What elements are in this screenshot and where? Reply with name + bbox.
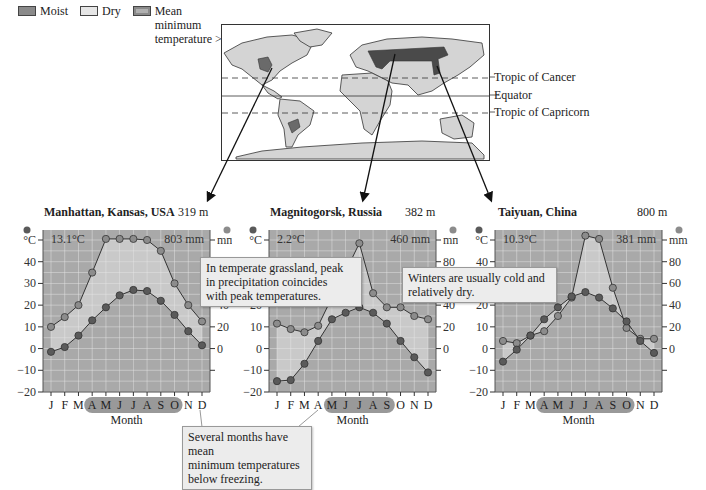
svg-text:F: F <box>61 398 68 412</box>
chart-title-magnitogorsk: Magnitogorsk, Russia <box>270 205 382 220</box>
svg-text:°C: °C <box>249 233 262 247</box>
svg-text:A: A <box>595 398 604 412</box>
svg-text:D: D <box>424 398 433 412</box>
svg-text:10: 10 <box>476 320 488 334</box>
svg-text:803 mm: 803 mm <box>164 232 204 246</box>
world-map-graphic <box>222 25 489 160</box>
svg-text:F: F <box>513 398 520 412</box>
legend-label: Dry <box>102 4 121 18</box>
svg-text:20: 20 <box>669 320 681 334</box>
svg-text:Month: Month <box>336 413 368 427</box>
climate-chart-magnitogorsk: −20−1001020°C0204080mm2.2°C460 mmJFMAMJJ… <box>226 222 458 427</box>
svg-text:M: M <box>525 398 536 412</box>
svg-text:J: J <box>569 398 574 412</box>
svg-text:0: 0 <box>256 342 262 356</box>
svg-text:J: J <box>501 398 506 412</box>
legend-label: Moist <box>40 4 68 18</box>
svg-text:−20: −20 <box>469 385 488 399</box>
svg-text:A: A <box>143 398 152 412</box>
chart-title-taiyuan: Taiyuan, China <box>498 205 577 220</box>
svg-text:M: M <box>101 398 112 412</box>
svg-text:J: J <box>117 398 122 412</box>
svg-text:−20: −20 <box>17 385 36 399</box>
elevation-manhattan: 319 m <box>178 205 208 220</box>
freezing-callout-pointers <box>180 408 340 428</box>
svg-text:13.1°C: 13.1°C <box>51 232 85 246</box>
svg-text:J: J <box>583 398 588 412</box>
svg-text:D: D <box>650 398 659 412</box>
svg-text:0: 0 <box>443 342 449 356</box>
svg-text:J: J <box>131 398 136 412</box>
svg-text:°C: °C <box>23 233 36 247</box>
svg-text:mm: mm <box>669 233 688 247</box>
svg-text:0: 0 <box>30 342 36 356</box>
svg-text:381 mm: 381 mm <box>616 232 656 246</box>
tropic-of-capricorn-label: Tropic of Capricorn <box>494 105 590 120</box>
svg-text:10.3°C: 10.3°C <box>503 232 537 246</box>
svg-text:J: J <box>49 398 54 412</box>
world-map <box>221 24 490 161</box>
svg-text:20: 20 <box>24 298 36 312</box>
svg-text:J: J <box>357 398 362 412</box>
mean-min-temp-swatch-icon <box>133 6 151 16</box>
svg-text:A: A <box>369 398 378 412</box>
legend-item-moist: Moist <box>18 4 68 46</box>
legend: Moist Dry Mean minimum temperature >0°C <box>18 4 251 46</box>
elevation-magnitogorsk: 382 m <box>405 205 435 220</box>
tropic-of-cancer-label: Tropic of Cancer <box>494 70 576 85</box>
svg-text:10: 10 <box>24 320 36 334</box>
svg-text:J: J <box>343 398 348 412</box>
svg-text:Month: Month <box>562 413 594 427</box>
svg-text:S: S <box>157 398 164 412</box>
svg-text:N: N <box>410 398 419 412</box>
svg-text:60: 60 <box>669 276 681 290</box>
svg-text:°C: °C <box>475 233 488 247</box>
chart-title-manhattan: Manhattan, Kansas, USA <box>44 205 175 220</box>
svg-text:80: 80 <box>669 255 681 269</box>
svg-text:40: 40 <box>24 255 36 269</box>
svg-text:M: M <box>73 398 84 412</box>
legend-item-dry: Dry <box>80 4 121 46</box>
svg-text:−10: −10 <box>17 363 36 377</box>
svg-text:30: 30 <box>24 276 36 290</box>
svg-text:A: A <box>88 398 97 412</box>
equator-label: Equator <box>494 88 532 103</box>
svg-text:O: O <box>170 398 179 412</box>
climate-chart-taiyuan: −20−100102040°C020406080mm10.3°C381 mmJF… <box>452 222 706 427</box>
svg-text:M: M <box>553 398 564 412</box>
climate-chart-manhattan: −20−10010203040°C02040mm13.1°C803 mmJFMA… <box>0 222 232 427</box>
svg-text:460 mm: 460 mm <box>390 232 430 246</box>
svg-text:0: 0 <box>669 342 675 356</box>
svg-text:0: 0 <box>217 342 223 356</box>
svg-text:O: O <box>622 398 631 412</box>
moist-swatch-icon <box>18 6 36 16</box>
svg-text:Month: Month <box>110 413 142 427</box>
elevation-taiyuan: 800 m <box>637 205 667 220</box>
svg-text:S: S <box>383 398 390 412</box>
svg-text:O: O <box>396 398 405 412</box>
svg-text:S: S <box>609 398 616 412</box>
svg-text:−20: −20 <box>243 385 262 399</box>
svg-text:40: 40 <box>669 298 681 312</box>
svg-text:0: 0 <box>482 342 488 356</box>
callout-freezing: Several months have mean minimum tempera… <box>182 426 312 490</box>
svg-text:2.2°C: 2.2°C <box>277 232 305 246</box>
svg-text:−10: −10 <box>243 363 262 377</box>
dry-swatch-icon <box>80 6 98 16</box>
callout-winters: Winters are usually cold and relatively … <box>402 267 557 303</box>
svg-text:10: 10 <box>250 320 262 334</box>
svg-text:N: N <box>636 398 645 412</box>
svg-text:A: A <box>540 398 549 412</box>
callout-temperate-grassland: In temperate grassland, peak in precipit… <box>200 257 362 307</box>
svg-text:−10: −10 <box>469 363 488 377</box>
